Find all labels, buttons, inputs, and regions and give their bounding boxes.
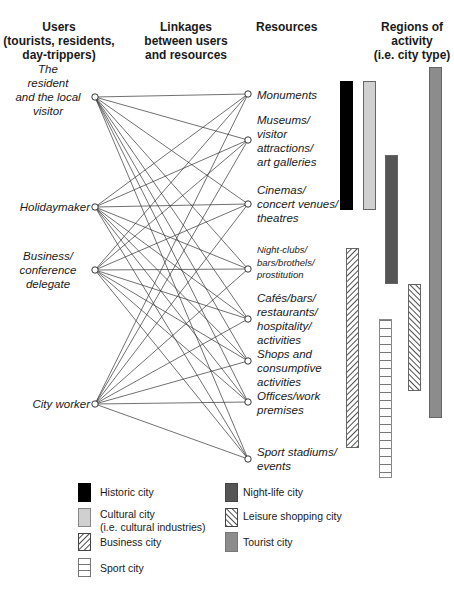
region-bar-sportcity [380,320,392,478]
region-bar-historic [341,82,353,210]
link-resident-cafes [95,97,248,319]
link-city-worker-cinemas [95,204,248,404]
region-bar-business [347,249,359,448]
region-bar-tourist [430,68,442,418]
resource-label-line: hospitality/ [257,319,318,333]
resource-node-monuments [245,91,251,97]
link-resident-sport [95,97,248,459]
legend-label-line: Sport city [100,562,144,575]
resource-label-line: consumptive [257,361,322,375]
resource-label-line: art galleries [257,155,316,169]
link-city-worker-nightclubs [95,269,248,404]
legend-swatch-leisure [225,508,238,527]
legend-label-line: Cultural city [100,508,206,521]
user-node-city-worker [92,401,98,407]
legend-label-line: Tourist city [243,536,293,549]
legend-label-line: Business city [100,536,161,549]
legend-label-nightlife: Night-life city [243,486,303,499]
link-city-worker-offices [95,402,248,404]
user-label-business: Business/ conference delegate [6,249,90,291]
resource-label-cafes: Cafés/bars/ restaurants/ hospitality/ ac… [257,291,318,347]
legend-label-business: Business city [100,536,161,549]
resource-label-line: Night-clubs/ [257,244,315,257]
link-city-worker-cafes [95,319,248,404]
resource-label-line: Shops and [257,347,322,361]
resource-label-line: premises [257,403,320,417]
resource-label-cinemas: Cinemas/ concert venues/ theatres [257,183,338,225]
user-label-holidaymaker: Holidaymaker [6,200,90,214]
resource-label-line: activities [257,333,318,347]
legend-label-line: Night-life city [243,486,303,499]
legend-swatch-cultural [78,508,91,527]
region-bars [341,68,442,478]
resource-label-line: Sport stadiums/ [257,445,337,459]
link-holidaymaker-cinemas [95,204,248,207]
resource-node-museums [245,137,251,143]
resource-label-line: Monuments [257,88,317,102]
resource-label-line: Cinemas/ [257,183,338,197]
resource-label-line: concert venues/ [257,197,338,211]
user-node-business [92,267,98,273]
resource-label-line: restaurants/ [257,305,318,319]
region-bar-nightlife [386,156,398,284]
link-resident-shops [95,97,248,361]
legend-label-line: Historic city [100,486,154,499]
user-label-city-worker: City worker [6,397,90,411]
resource-label-line: prostitution [257,269,315,282]
resource-node-sport [245,456,251,462]
link-business-nightclubs [95,269,248,270]
legend-label-cultural: Cultural city (i.e. cultural industries) [100,508,206,534]
user-node-holidaymaker [92,204,98,210]
legend-label-line: (i.e. cultural industries) [100,521,206,534]
link-city-worker-sport [95,404,248,459]
legend-swatch-historic [78,483,91,502]
link-business-cinemas [95,204,248,270]
legend-swatch-nightlife [225,483,238,502]
resource-label-line: Offices/work [257,389,320,403]
resource-label-line: theatres [257,211,338,225]
resource-label-line: Museums/ [257,113,316,127]
legend-label-tourist: Tourist city [243,536,293,549]
resource-label-line: bars/brothels/ [257,257,315,270]
resource-label-line: Cafés/bars/ [257,291,318,305]
link-business-museums [95,140,248,270]
user-label-line: City worker [6,397,90,411]
resource-label-nightclubs: Night-clubs/ bars/brothels/ prostitution [257,244,315,282]
user-label-line: The [6,62,90,76]
user-label-line: delegate [6,277,90,291]
resource-node-cinemas [245,201,251,207]
link-holidaymaker-nightclubs [95,207,248,269]
legend-swatch-sport [78,558,91,577]
linkage-lines [95,94,248,459]
link-resident-museums [95,97,248,140]
region-bar-leisure [409,285,421,391]
user-node-resident [92,94,98,100]
link-holidaymaker-museums [95,140,248,207]
legend-label-historic: Historic city [100,486,154,499]
link-resident-monuments [95,94,248,97]
legend-swatch-tourist [225,532,238,552]
resource-node-nightclubs [245,266,251,272]
legend-swatch-business [78,533,91,551]
link-holidaymaker-cafes [95,207,248,319]
region-bar-cultural [364,82,376,210]
user-label-line: Holidaymaker [6,200,90,214]
resource-node-offices [245,399,251,405]
legend-label-leisure: Leisure shopping city [243,510,342,523]
user-label-line: conference [6,263,90,277]
link-holidaymaker-sport [95,207,248,459]
resource-label-shops: Shops and consumptive activities [257,347,322,389]
legend-label-line: Leisure shopping city [243,510,342,523]
legend-label-sport: Sport city [100,562,144,575]
user-label-line: resident [6,76,90,90]
user-label-resident: The resident and the local visitor [6,62,90,118]
link-city-worker-monuments [95,94,248,404]
user-label-line: Business/ [6,249,90,263]
resource-label-monuments: Monuments [257,88,317,102]
resource-label-sport: Sport stadiums/ events [257,445,337,473]
resource-node-cafes [245,316,251,322]
resource-label-line: attractions/ [257,141,316,155]
resource-label-line: events [257,459,337,473]
resource-label-line: visitor [257,127,316,141]
resource-node-shops [245,358,251,364]
